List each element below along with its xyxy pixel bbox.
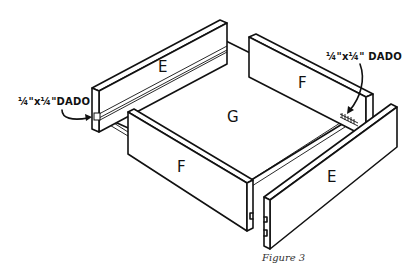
part-label-back-left: E bbox=[158, 58, 167, 76]
part-label-bottom: G bbox=[227, 108, 239, 126]
part-label-front-right: E bbox=[327, 168, 336, 186]
dado-callout-left: ¼"x¼"DADO bbox=[18, 96, 90, 107]
part-label-back-right: F bbox=[298, 74, 307, 92]
callout-arrow-left-icon bbox=[62, 110, 88, 119]
drawer-assembly-diagram: E F G F E ¼"x¼"DADO ¼"x¼" DADO bbox=[0, 0, 413, 278]
figure-caption: Figure 3 bbox=[262, 252, 305, 263]
arrowhead-left-icon bbox=[85, 114, 92, 121]
dado-callout-right: ¼"x¼" DADO bbox=[326, 51, 402, 62]
part-label-front-left: F bbox=[177, 158, 186, 176]
